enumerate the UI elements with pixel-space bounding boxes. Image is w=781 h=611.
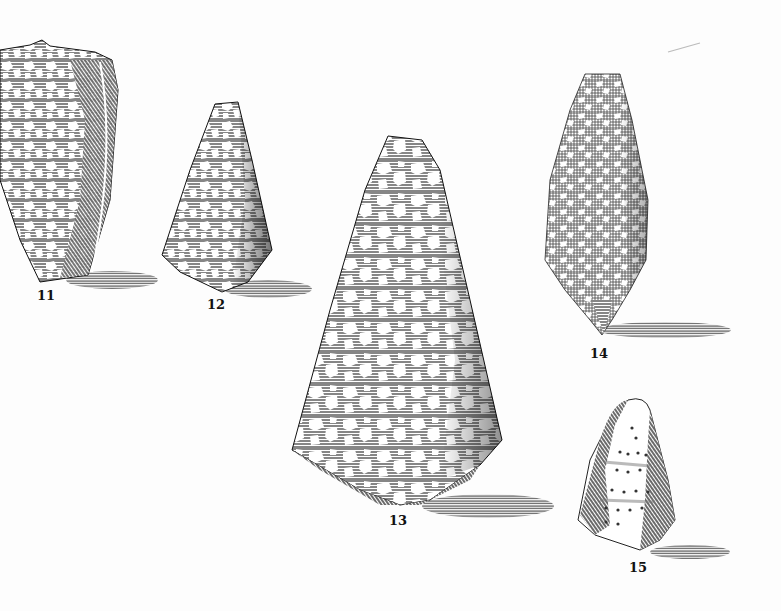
figure-label-11: 11 (37, 288, 55, 303)
figure-label-15: 15 (629, 560, 647, 575)
engraving-plate: 11 12 13 14 15 (0, 0, 781, 611)
shell-figure-12 (162, 102, 312, 298)
stray-mark (668, 43, 700, 52)
shell-figure-14 (545, 74, 731, 338)
figure-label-13: 13 (389, 513, 407, 528)
figure-label-12: 12 (207, 297, 225, 312)
figure-label-14: 14 (590, 346, 608, 361)
shell-figure-11 (0, 40, 158, 289)
shell-figure-15 (578, 399, 730, 559)
shell-figure-13 (292, 136, 554, 518)
